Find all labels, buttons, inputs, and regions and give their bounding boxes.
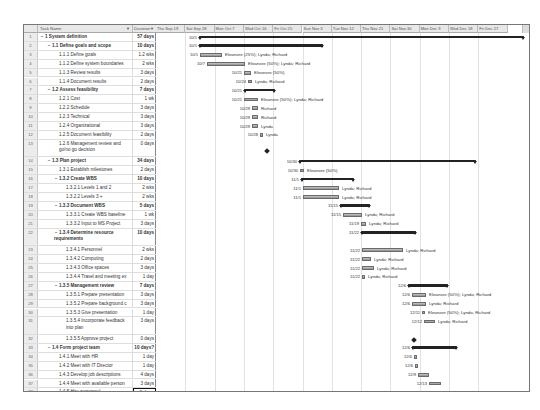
table-row[interactable]: 41.1.2 Define system boundaries2 wks [24, 60, 156, 69]
table-row[interactable]: 351.4.2 Meet with IT Director1 day [24, 362, 156, 371]
duration-cell[interactable]: 3 days [133, 300, 156, 308]
duration-cell[interactable]: 4 days [133, 371, 156, 379]
table-row[interactable]: 151.3.1 Establish milestones2 days [24, 166, 156, 175]
row-id[interactable]: 22 [24, 229, 38, 246]
table-row[interactable]: 2−1.1 Define goals and scope10 days [24, 42, 156, 51]
row-id[interactable]: 5 [24, 69, 38, 77]
task-name-cell[interactable]: −1.3.5 Management review [38, 282, 133, 290]
row-id[interactable]: 15 [24, 166, 38, 174]
task-bar[interactable] [248, 80, 252, 84]
task-name-cell[interactable]: 1.3.2.1 Levels 1 and 2 [38, 184, 133, 192]
task-bar[interactable] [362, 257, 371, 261]
duration-cell[interactable]: 1 day [133, 273, 156, 281]
duration-cell[interactable]: 1 day [133, 309, 156, 317]
duration-cell[interactable]: 1.2 wks [133, 51, 156, 59]
task-name-cell[interactable]: 1.3.5.4 Incorporate feedback into plan [38, 317, 133, 334]
table-row[interactable]: 251.3.4.3 Office spaces3 days [24, 264, 156, 273]
row-id[interactable]: 12 [24, 131, 38, 139]
duration-cell[interactable]: 1 day [133, 362, 156, 370]
task-name-cell[interactable]: 1.4.4 Meet with available person [38, 380, 133, 388]
task-name-cell[interactable]: −1.3.4 Determine resource requirements [38, 229, 133, 246]
table-row[interactable]: 33−1.4 Form project team10 days? [24, 344, 156, 353]
table-row[interactable]: 19−1.3.3 Document WBS5 days [24, 202, 156, 211]
task-name-cell[interactable]: 1.2.6 Management review and go/no go dec… [38, 140, 133, 157]
task-name-cell[interactable]: −1.3 Plan project [38, 157, 133, 165]
duration-cell[interactable]: 3 days [133, 104, 156, 112]
row-id[interactable]: 37 [24, 380, 38, 388]
row-id[interactable]: 13 [24, 140, 38, 157]
task-name-cell[interactable]: 1.4.1 Meet with HR [38, 353, 133, 361]
duration-header[interactable]: Duration ▼ [133, 25, 156, 33]
task-bar[interactable] [252, 106, 258, 110]
row-id[interactable]: 38 [24, 388, 38, 392]
task-name-cell[interactable]: 1.3.3.2 Input to MS Project [38, 220, 133, 228]
row-id[interactable]: 2 [24, 42, 38, 50]
task-name-cell[interactable]: 1.3.3.1 Create WBS baseline [38, 211, 133, 219]
task-bar[interactable] [412, 293, 426, 297]
task-name-cell[interactable]: 1.4.3 Develop job descriptions [38, 371, 133, 379]
table-row[interactable]: 7−1.2 Assess feasibility7 days [24, 86, 156, 95]
collapse-toggle-icon[interactable]: − [54, 202, 58, 210]
table-row[interactable]: 181.3.2.2 Levels 3 +2 wks [24, 193, 156, 202]
task-bar[interactable] [252, 124, 258, 128]
table-row[interactable]: 61.1.4 Document results2 days [24, 78, 156, 87]
task-bar[interactable] [252, 115, 258, 119]
duration-cell[interactable]: 1 day [133, 353, 156, 361]
table-row[interactable]: 111.2.4 Organizational3 days [24, 122, 156, 131]
summary-bar[interactable] [361, 231, 416, 234]
task-name-cell[interactable]: 1.3.5.5 Approve project [38, 335, 133, 343]
table-row[interactable]: 231.3.4.1 Personnel2 wks [24, 246, 156, 255]
duration-cell[interactable]: 7 days [133, 282, 156, 290]
duration-cell[interactable]: 57 days [133, 33, 156, 41]
row-id[interactable]: 6 [24, 78, 38, 86]
table-row[interactable]: 211.3.3.2 Input to MS Project3 days [24, 220, 156, 229]
row-id[interactable]: 31 [24, 317, 38, 334]
timescale-scroll-edge[interactable] [522, 25, 529, 33]
duration-cell[interactable]: 3 days [133, 122, 156, 130]
task-name-cell[interactable]: 1.3.4.4 Travel and meeting ex [38, 273, 133, 281]
row-id[interactable]: 17 [24, 184, 38, 192]
task-bar[interactable] [200, 53, 222, 57]
duration-cell[interactable]: 3 days [133, 291, 156, 299]
row-id[interactable]: 11 [24, 122, 38, 130]
table-row[interactable]: 241.3.4.2 Computing2 days [24, 255, 156, 264]
task-bar[interactable] [244, 71, 251, 75]
task-name-cell[interactable]: 1.2.4 Organizational [38, 122, 133, 130]
task-bar[interactable] [207, 62, 245, 66]
duration-cell[interactable]: 7 days [133, 86, 156, 94]
table-row[interactable]: 121.2.5 Document feasibility2 days [24, 131, 156, 140]
table-row[interactable]: 51.1.3 Review results3 days [24, 69, 156, 78]
task-name-cell[interactable]: 1.4.2 Meet with IT Director [38, 362, 133, 370]
collapse-toggle-icon[interactable]: − [40, 33, 44, 41]
task-bar[interactable] [303, 186, 339, 190]
table-row[interactable]: 301.3.5.3 Give presentation1 day [24, 309, 156, 318]
duration-cell[interactable]: 3 days [133, 317, 156, 334]
row-id[interactable]: 3 [24, 51, 38, 59]
row-id[interactable]: 26 [24, 273, 38, 281]
row-id[interactable]: 10 [24, 113, 38, 121]
row-id[interactable]: 32 [24, 335, 38, 343]
duration-cell[interactable]: 10 days? [133, 344, 156, 352]
duration-cell[interactable]: 3 days [133, 380, 156, 388]
row-id[interactable]: 7 [24, 86, 38, 94]
task-name-cell[interactable]: 1.3.4.3 Office spaces [38, 264, 133, 272]
row-id[interactable]: 21 [24, 220, 38, 228]
row-id[interactable]: 27 [24, 282, 38, 290]
duration-cell[interactable]: 1 wk [133, 211, 156, 219]
task-name-cell[interactable]: 1.1.2 Define system boundaries [38, 60, 133, 68]
duration-cell[interactable]: 2 days [133, 166, 156, 174]
table-row[interactable]: 22−1.3.4 Determine resource requirements… [24, 229, 156, 247]
table-row[interactable]: 201.3.3.1 Create WBS baseline1 wk [24, 211, 156, 220]
row-id[interactable]: 33 [24, 344, 38, 352]
table-row[interactable]: 131.2.6 Management review and go/no go d… [24, 140, 156, 158]
duration-cell[interactable]: 2 wks [133, 246, 156, 254]
summary-bar[interactable] [340, 204, 370, 207]
duration-cell[interactable]: 2 days [133, 131, 156, 139]
row-id[interactable]: 23 [24, 246, 38, 254]
task-bar[interactable] [422, 311, 425, 315]
summary-bar[interactable] [408, 284, 448, 287]
task-bar[interactable] [362, 266, 374, 270]
task-name-cell[interactable]: 1.2.2 Schedule [38, 104, 133, 112]
summary-bar[interactable] [412, 346, 457, 349]
task-name-cell[interactable]: 1.3.1 Establish milestones [38, 166, 133, 174]
